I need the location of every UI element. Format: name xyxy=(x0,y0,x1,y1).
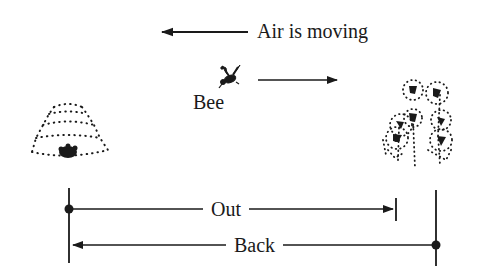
back-label: Back xyxy=(226,235,283,255)
flowers-icon xyxy=(383,80,452,168)
diagram-canvas xyxy=(0,0,478,273)
hive-entrance-bees xyxy=(59,144,78,159)
out-label: Out xyxy=(203,199,249,219)
out-start-dot xyxy=(65,205,74,214)
air-moving-label: Air is moving xyxy=(253,21,372,41)
bee-label: Bee xyxy=(193,92,224,112)
bee-icon xyxy=(219,65,240,88)
back-start-dot xyxy=(432,241,441,250)
